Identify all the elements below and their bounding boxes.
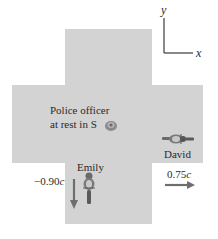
officer-label-line1: Police officer (50, 104, 109, 116)
emily-velocity-value: −0.90 (34, 175, 59, 187)
x-axis-label: x (196, 47, 201, 59)
david-velocity-label: 0.75c (167, 168, 191, 180)
david-velocity-value: 0.75 (167, 168, 186, 180)
emily-motorcycle-icon (82, 172, 96, 206)
david-motorcycle-icon (161, 133, 195, 145)
emily-velocity-unit: c (59, 175, 64, 187)
emily-velocity-arrow-icon (69, 178, 79, 210)
david-velocity-arrow-icon (164, 180, 196, 190)
officer-label-line2: at rest in S (50, 118, 97, 130)
y-axis-label: y (161, 4, 166, 16)
david-name-label: David (164, 148, 191, 160)
emily-velocity-label: −0.90c (34, 175, 64, 187)
police-officer-icon (103, 119, 119, 133)
david-velocity-unit: c (186, 168, 191, 180)
